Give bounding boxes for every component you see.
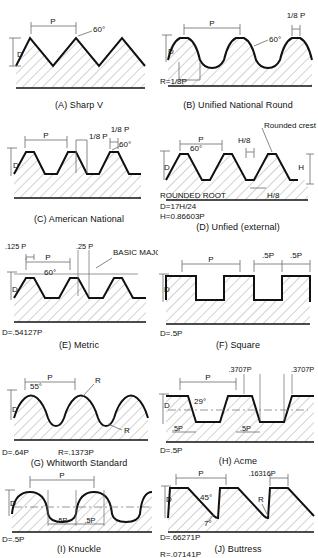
- panel-h-caption: (H) Acme: [158, 456, 318, 466]
- panel-j-depth-label: D: [166, 495, 172, 504]
- panel-c-drawing: P D 1/8 P 60° 1/8 P: [0, 118, 158, 218]
- panel-i-knuckle: P D .5P .5P D=.5P (I) Knuckle: [0, 470, 158, 558]
- panel-e-major-dia-note: BASIC MAJOR Ø: [113, 248, 158, 257]
- panel-h-crest-flat-a-label: .3707P: [228, 365, 251, 374]
- panel-i-formula-d: D=.5P: [2, 535, 24, 542]
- panel-c-depth-label: D: [13, 161, 19, 170]
- panel-b-angle-label: 60°: [269, 35, 281, 44]
- thread-profile-figure: P D 60° (A) Sharp V P: [0, 0, 318, 558]
- panel-e-caption: (E) Metric: [0, 340, 158, 350]
- panel-h-drawing: P D 29° .3707P .3707P .5P .5P D=.5P: [158, 360, 318, 460]
- panel-b-depth-label: D: [168, 47, 174, 56]
- panel-a-caption: (A) Sharp V: [0, 100, 158, 110]
- panel-i-arc-a-label: .5P: [57, 516, 68, 525]
- panel-c-crest-flat-label: 1/8 P: [111, 125, 130, 134]
- panel-f-drawing: P D .5P .5P D=.5P: [158, 240, 318, 342]
- panel-c-pitch-label: P: [43, 131, 48, 140]
- panel-j-face-angle-label: 45°: [200, 493, 212, 502]
- panel-j-pitch-label: P: [198, 470, 203, 478]
- panel-f-depth-label: D: [164, 285, 170, 294]
- panel-c-american-national: P D 1/8 P 60° 1/8 P (C) American Nationa…: [0, 118, 158, 240]
- panel-f-caption: (F) Square: [158, 340, 318, 350]
- panel-d-height-label: H: [298, 163, 304, 172]
- panel-g-caption: (G) Whitworth Standard: [0, 458, 158, 468]
- panel-j-radius-label: R: [258, 495, 264, 504]
- panel-i-pitch-label: P: [59, 471, 64, 480]
- panel-f-formula-d: D=.5P: [160, 329, 182, 338]
- panel-g-formula-r: R=.1373P: [58, 448, 94, 457]
- panel-a-angle-label: 60°: [93, 25, 105, 34]
- panel-f-crest-width-label: .5P: [290, 251, 302, 260]
- panel-f-space-width-label: .5P: [262, 251, 274, 260]
- panel-b-crest-flat-label: 1/8 P: [287, 11, 306, 20]
- panel-g-formula-d: D=.64P: [2, 448, 29, 457]
- panel-h-crest-flat-b-label: .3707P: [291, 365, 314, 374]
- panel-d-caption: (D) Unfied (external): [158, 222, 318, 232]
- panel-i-drawing: P D .5P .5P D=.5P: [0, 470, 158, 542]
- panel-a-sharp-v: P D 60° (A) Sharp V: [0, 0, 158, 118]
- panel-i-depth-label: D: [10, 499, 16, 508]
- panel-d-root-flat-label: H/8: [267, 191, 280, 200]
- panel-i-caption: (I) Knuckle: [0, 544, 158, 554]
- panel-e-pitch-label: P: [45, 253, 50, 262]
- panel-a-pitch-label: P: [50, 17, 55, 26]
- panel-b-unified-national-round: P D 60° 1/8 P R=1/8P (B) Unified Nationa…: [158, 0, 318, 118]
- panel-f-pitch-label: P: [208, 255, 213, 264]
- panel-c-caption: (C) American National: [0, 214, 158, 224]
- panel-j-crest-flat-label: .16316P: [248, 470, 275, 478]
- panel-g-angle-label: 55°: [30, 382, 42, 391]
- panel-g-drawing: P D 55° R R D=.64P R=.1373P: [0, 360, 158, 460]
- panel-h-angle-label: 29°: [194, 397, 206, 406]
- panel-d-angle-label: 60°: [190, 144, 202, 153]
- panel-j-back-angle-label: 7°: [204, 519, 212, 528]
- panel-e-drawing: P D .125 P .25 P 60° BASIC MAJOR Ø D=.54…: [0, 240, 158, 342]
- panel-g-whitworth-standard: P D 55° R R D=.64P R=.1373P (G) Whitwort…: [0, 360, 158, 470]
- panel-f-square: P D .5P .5P D=.5P (F) Square: [158, 240, 318, 360]
- panel-j-drawing: P .16316P D 45° 7° R D=.66271P: [158, 470, 318, 542]
- panel-h-root-a-label: .5P: [172, 424, 183, 433]
- panel-h-root-b-label: .5P: [240, 424, 251, 433]
- panel-b-caption: (B) Unified National Round: [158, 100, 318, 110]
- panel-j-formula-d: D=.66271P: [160, 533, 200, 542]
- panel-b-drawing: P D 60° 1/8 P R=1/8P: [158, 0, 318, 100]
- panel-e-formula-d: D=.54127P: [2, 328, 42, 337]
- panel-e-depth-label: D: [12, 285, 18, 294]
- panel-g-radius-top-label: R: [95, 376, 101, 385]
- panel-h-acme: P D 29° .3707P .3707P .5P .5P D=.5P (H) …: [158, 360, 318, 470]
- panel-c-root-flat-label: 1/8 P: [89, 132, 108, 141]
- panel-d-crest-flat-label: H/8: [238, 136, 251, 145]
- panel-g-radius-bottom-label: R: [124, 426, 130, 435]
- panel-h-pitch-label: P: [205, 373, 210, 382]
- panel-e-root-flat-label: .25 P: [76, 242, 93, 251]
- panel-d-pitch-label: P: [198, 135, 203, 144]
- panel-e-angle-label: 60°: [44, 268, 56, 277]
- panel-grid: P D 60° (A) Sharp V P: [0, 0, 318, 558]
- panel-b-root-radius-label: R=1/8P: [160, 77, 187, 86]
- panel-h-formula-d: D=.5P: [160, 446, 182, 455]
- panel-e-crest-flat-label: .125 P: [5, 242, 26, 251]
- panel-g-pitch-label: P: [47, 373, 52, 382]
- panel-d-unified-external: P D 60° H/8 H/8 H Rounded crest optional…: [158, 118, 318, 240]
- panel-i-arc-b-label: .5P: [85, 516, 96, 525]
- panel-d-formula-h: H=0.86603P: [160, 212, 205, 221]
- panel-e-metric: P D .125 P .25 P 60° BASIC MAJOR Ø D=.54…: [0, 240, 158, 360]
- panel-d-depth-label: D: [164, 163, 170, 172]
- panel-j-buttress: P .16316P D 45° 7° R D=.66271P R=.07141P…: [158, 470, 318, 558]
- panel-h-depth-label: D: [164, 401, 170, 410]
- panel-b-pitch-label: P: [209, 19, 214, 28]
- panel-d-formula-d: D=17H/24: [160, 202, 197, 211]
- panel-a-depth-label: D: [17, 50, 23, 59]
- panel-g-depth-label: D: [12, 405, 18, 414]
- panel-a-drawing: P D 60°: [0, 0, 158, 100]
- panel-c-angle-label: 60°: [119, 140, 131, 149]
- panel-d-drawing: P D 60° H/8 H/8 H Rounded crest optional…: [158, 118, 318, 222]
- panel-d-root-note: ROUNDED ROOT: [160, 191, 226, 200]
- panel-j-caption: (J) Buttress: [158, 544, 318, 554]
- panel-d-crest-note-line: Rounded crest optional: [264, 121, 318, 130]
